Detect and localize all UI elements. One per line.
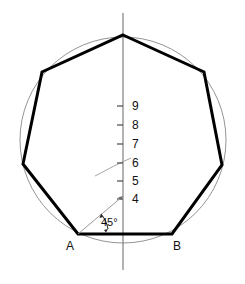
- scale-label-7: 7: [132, 137, 139, 151]
- scale-label-9: 9: [132, 99, 139, 113]
- angle-ray-line: [78, 196, 123, 234]
- angle-label-45: 45°: [101, 216, 118, 228]
- division-scale-labels: 9 8 7 6 5 4: [132, 99, 139, 206]
- angle-arc-arrowhead-start: [104, 229, 108, 233]
- construction-drawing: 9 8 7 6 5 4 45° A B: [0, 0, 245, 284]
- scale-label-5: 5: [132, 174, 139, 188]
- scale-label-6: 6: [132, 156, 139, 170]
- vertex-label-b: B: [173, 239, 181, 253]
- division-scale-ticks: [117, 106, 123, 199]
- geometric-figure: 9 8 7 6 5 4 45° A B: [0, 0, 245, 284]
- scale-label-4: 4: [132, 192, 139, 206]
- construction-arc: [95, 158, 131, 176]
- vertex-label-a: A: [66, 239, 74, 253]
- scale-label-8: 8: [132, 118, 139, 132]
